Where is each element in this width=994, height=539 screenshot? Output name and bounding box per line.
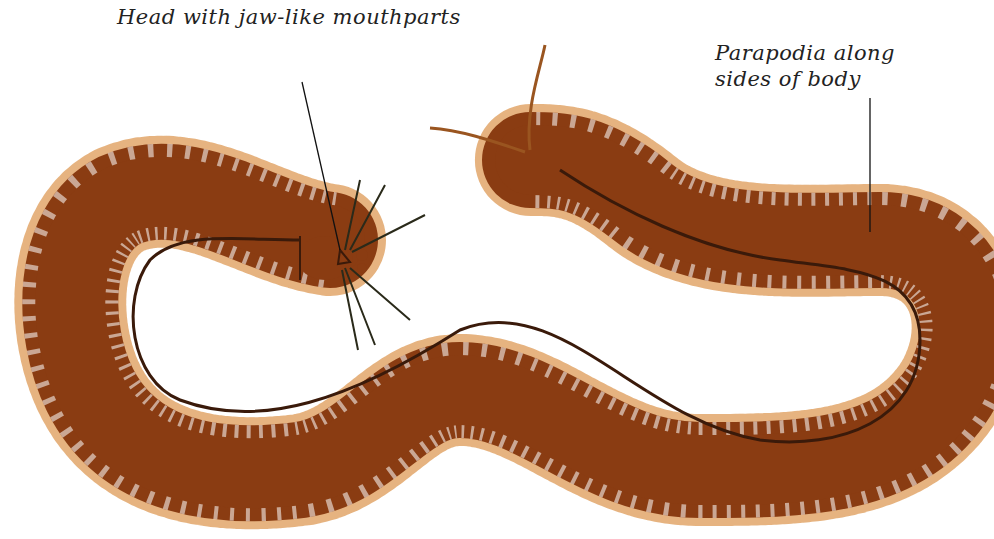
inner-gap-right xyxy=(792,333,868,377)
parapodia-label-line1: Parapodia along xyxy=(715,40,895,66)
parapodia-label-line2: sides of body xyxy=(715,66,895,92)
head-label: Head with jaw-like mouthparts xyxy=(117,4,461,30)
worm-illustration: Head with jaw-like mouthparts Parapodia … xyxy=(0,0,994,539)
parapodia-label: Parapodia along sides of body xyxy=(715,40,895,92)
inner-gap-left xyxy=(175,294,315,346)
